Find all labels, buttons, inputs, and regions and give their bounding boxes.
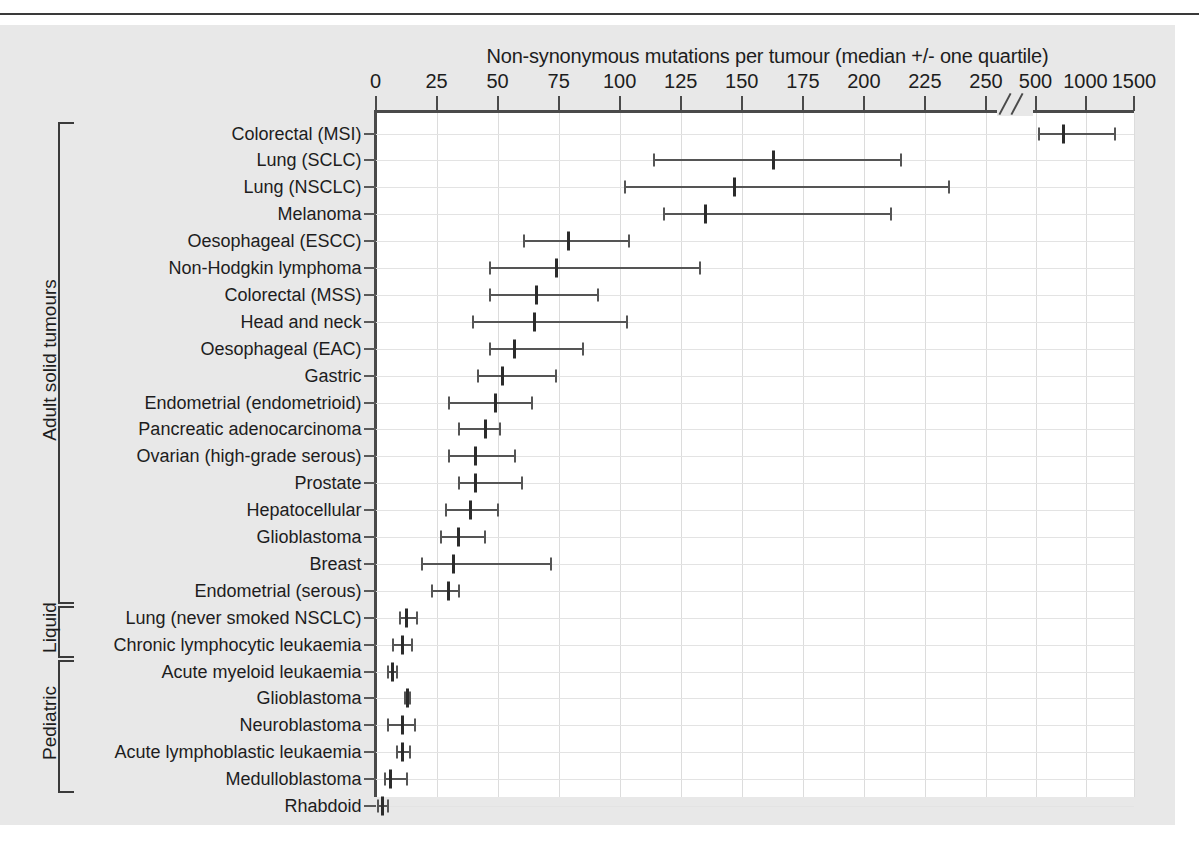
lower-quartile-cap	[663, 208, 665, 221]
upper-quartile-cap	[628, 235, 630, 248]
upper-quartile-cap	[699, 262, 701, 275]
x-axis-tick	[1085, 96, 1087, 111]
chart-row[interactable]: Colorectal (MSI)	[0, 120, 1175, 147]
row-label: Lung (SCLC)	[256, 150, 361, 171]
chart-row[interactable]: Endometrial (endometrioid)	[0, 389, 1175, 416]
upper-quartile-cap	[499, 423, 501, 436]
lower-quartile-cap	[458, 477, 460, 490]
x-axis-tick	[619, 96, 621, 111]
chart-row[interactable]: Lung (never smoked NSCLC)	[0, 604, 1175, 631]
median-marker	[457, 528, 460, 547]
upper-quartile-cap	[626, 315, 628, 328]
chart-row[interactable]: Oesophageal (EAC)	[0, 335, 1175, 362]
row-label: Gastric	[304, 365, 361, 386]
upper-quartile-cap	[416, 611, 418, 624]
quartile-whisker	[441, 536, 485, 538]
row-label: Chronic lymphocytic leukaemia	[113, 634, 361, 655]
row-tick	[364, 751, 376, 753]
chart-row[interactable]: Medulloblastoma	[0, 766, 1175, 793]
median-marker	[704, 205, 707, 224]
x-axis-tick	[985, 96, 987, 111]
chart-row[interactable]: Prostate	[0, 470, 1175, 497]
row-tick	[364, 482, 376, 484]
x-axis-tick-label: 250	[969, 70, 1002, 93]
upper-quartile-cap	[387, 800, 389, 813]
x-axis-tick-label: 125	[664, 70, 697, 93]
chart-row[interactable]: Endometrial (serous)	[0, 577, 1175, 604]
row-label: Lung (NSCLC)	[243, 177, 361, 198]
row-gridline	[376, 698, 1135, 699]
median-marker	[452, 554, 455, 573]
row-tick	[364, 294, 376, 296]
x-axis-tick-label: 50	[486, 70, 508, 93]
row-label: Hepatocellular	[246, 500, 361, 521]
row-tick	[364, 509, 376, 511]
chart-row[interactable]: Pancreatic adenocarcinoma	[0, 416, 1175, 443]
upper-quartile-cap	[409, 692, 411, 705]
lower-quartile-cap	[458, 423, 460, 436]
chart-row[interactable]: Chronic lymphocytic leukaemia	[0, 631, 1175, 658]
chart-row[interactable]: Gastric	[0, 362, 1175, 389]
median-marker	[474, 447, 477, 466]
row-tick	[364, 724, 376, 726]
chart-row[interactable]: Hepatocellular	[0, 497, 1175, 524]
upper-quartile-cap	[497, 504, 499, 517]
row-gridline	[376, 645, 1135, 646]
chart-row[interactable]: Colorectal (MSS)	[0, 281, 1175, 308]
lower-quartile-cap	[396, 746, 398, 759]
upper-quartile-cap	[550, 557, 552, 570]
lower-quartile-cap	[477, 369, 479, 382]
row-tick	[364, 402, 376, 404]
row-tick	[364, 671, 376, 673]
chart-row[interactable]: Ovarian (high-grade serous)	[0, 443, 1175, 470]
chart-row[interactable]: Rhabdoid	[0, 793, 1175, 820]
chart-row[interactable]: Oesophageal (ESCC)	[0, 228, 1175, 255]
quartile-whisker	[654, 159, 901, 161]
lower-quartile-cap	[384, 773, 386, 786]
median-marker	[501, 366, 504, 385]
x-axis-tick-label: 1500	[1112, 70, 1157, 93]
chart-row[interactable]: Glioblastoma	[0, 685, 1175, 712]
chart-row[interactable]: Melanoma	[0, 201, 1175, 228]
lower-quartile-cap	[399, 611, 401, 624]
chart-row[interactable]: Neuroblastoma	[0, 712, 1175, 739]
lower-quartile-cap	[377, 800, 379, 813]
chart-row[interactable]: Non-Hodgkin lymphoma	[0, 255, 1175, 282]
median-marker	[401, 716, 404, 735]
upper-quartile-cap	[890, 208, 892, 221]
upper-quartile-cap	[458, 584, 460, 597]
chart-row[interactable]: Lung (NSCLC)	[0, 174, 1175, 201]
x-axis-tick	[924, 96, 926, 111]
chart-row[interactable]: Lung (SCLC)	[0, 147, 1175, 174]
lower-quartile-cap	[624, 181, 626, 194]
row-tick	[364, 348, 376, 350]
row-gridline	[376, 591, 1135, 592]
x-axis-tick-label: 25	[425, 70, 447, 93]
chart-row[interactable]: Breast	[0, 550, 1175, 577]
x-axis-tick-label: 0	[370, 70, 381, 93]
row-tick	[364, 267, 376, 269]
group-label: Liquid	[39, 605, 61, 653]
quartile-whisker	[625, 186, 950, 188]
figure-panel: Non-synonymous mutations per tumour (med…	[0, 25, 1175, 825]
quartile-whisker	[422, 563, 551, 565]
quartile-whisker	[490, 267, 700, 269]
row-tick	[364, 240, 376, 242]
median-marker	[389, 770, 392, 789]
x-axis-tick	[1035, 96, 1037, 111]
row-gridline	[376, 752, 1135, 753]
group-label: Pediatric	[39, 659, 61, 788]
chart-row[interactable]: Glioblastoma	[0, 524, 1175, 551]
row-gridline	[376, 134, 1135, 135]
lower-quartile-cap	[440, 531, 442, 544]
lower-quartile-cap	[1038, 127, 1040, 140]
row-gridline	[376, 806, 1135, 807]
chart-row[interactable]: Acute lymphoblastic leukaemia	[0, 739, 1175, 766]
quartile-whisker	[1039, 133, 1115, 135]
median-marker	[391, 662, 394, 681]
chart-row[interactable]: Head and neck	[0, 308, 1175, 335]
row-label: Pancreatic adenocarcinoma	[138, 419, 361, 440]
x-axis-tick-label: 150	[725, 70, 758, 93]
chart-row[interactable]: Acute myeloid leukaemia	[0, 658, 1175, 685]
x-axis-tick	[1133, 96, 1135, 111]
